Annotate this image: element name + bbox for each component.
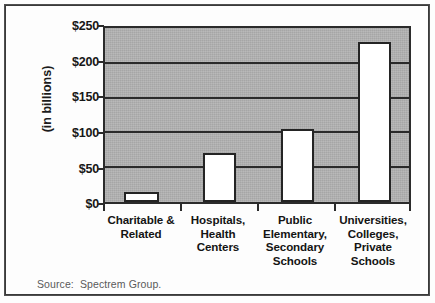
- chart-figure: (in billions) $250 $200 $150 $100 $50 $0: [0, 0, 435, 303]
- x-tick-mark: [409, 204, 411, 211]
- y-tick-mark: [98, 168, 104, 170]
- y-tick-mark: [98, 25, 104, 27]
- y-tick-label: $0: [43, 198, 99, 210]
- x-category-label-3: Universities, Colleges, Private Schools: [327, 213, 419, 267]
- y-tick-label: $200: [43, 56, 99, 68]
- y-tick-mark: [98, 132, 104, 134]
- x-tick-mark: [257, 204, 259, 211]
- x-category-line: Schools: [327, 254, 419, 268]
- x-tick-mark: [180, 204, 182, 211]
- bar-charitable-related: [124, 192, 159, 202]
- y-tick-mark: [98, 203, 104, 205]
- x-tick-mark: [334, 204, 336, 211]
- bar-public-elementary-secondary-schools: [281, 129, 314, 202]
- y-tick-label: $50: [43, 163, 99, 175]
- y-tick-label: $100: [43, 127, 99, 139]
- bar-hospitals-health-centers: [203, 153, 236, 202]
- y-tick-mark: [98, 61, 104, 63]
- figure-frame: (in billions) $250 $200 $150 $100 $50 $0: [4, 4, 430, 296]
- x-tick-mark: [103, 204, 105, 211]
- plot-area: [103, 26, 411, 204]
- y-tick-mark: [98, 96, 104, 98]
- y-axis-tick-labels: $250 $200 $150 $100 $50 $0: [39, 6, 99, 303]
- x-category-line: Colleges,: [327, 227, 419, 241]
- y-tick-label: $150: [43, 91, 99, 103]
- source-note: Source: Spectrem Group.: [37, 278, 161, 290]
- x-category-line: Private: [327, 240, 419, 254]
- x-category-line: Universities,: [327, 213, 419, 227]
- y-tick-label: $250: [43, 20, 99, 32]
- bar-universities-colleges-private-schools: [358, 42, 391, 202]
